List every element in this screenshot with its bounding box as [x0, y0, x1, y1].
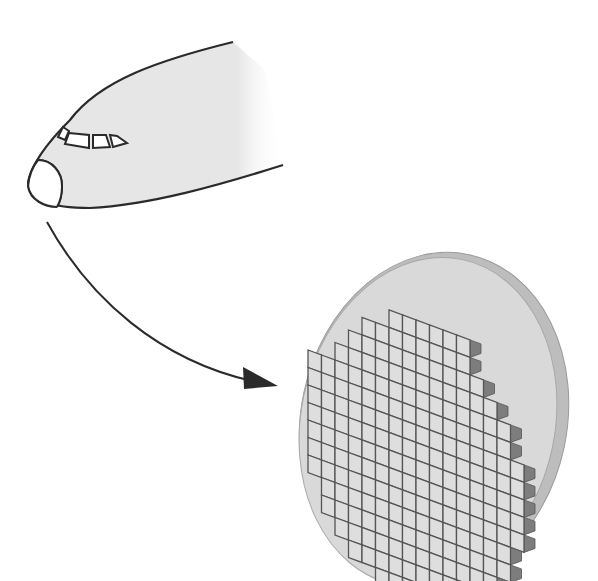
arrow-shaft — [47, 222, 252, 381]
diagram-canvas — [0, 0, 598, 581]
window-3 — [93, 135, 110, 148]
tile-side-face — [524, 535, 535, 553]
aircraft-nose — [28, 42, 283, 208]
phased-array-antenna — [269, 227, 598, 581]
arrow-head — [243, 367, 278, 389]
curved-arrow-icon — [47, 222, 278, 389]
tile-side-face — [511, 565, 522, 581]
